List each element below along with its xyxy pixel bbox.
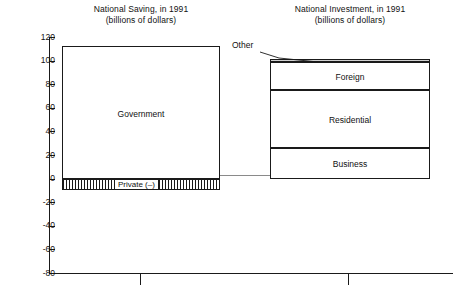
other-callout-leader-line [0, 0, 459, 295]
chart-canvas: National Saving, in 1991 (billions of do… [0, 0, 459, 295]
